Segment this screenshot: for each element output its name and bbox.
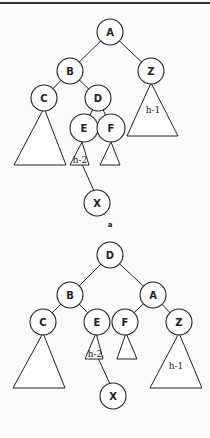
svg-text:Z: Z (175, 317, 182, 328)
node-z: Z (138, 58, 164, 84)
subtree-f (100, 142, 120, 165)
svg-text:B: B (66, 290, 74, 301)
node-a: A (97, 19, 123, 45)
svg-text:X: X (109, 391, 117, 402)
node-z: Z (166, 309, 192, 335)
node-c: C (30, 309, 56, 335)
svg-text:D: D (94, 93, 102, 104)
node-x: X (84, 190, 110, 216)
svg-text:F: F (108, 123, 115, 134)
node-x: X (100, 383, 126, 409)
svg-text:Z: Z (147, 66, 154, 77)
svg-text:B: B (66, 66, 74, 77)
node-e: E (70, 114, 98, 142)
node-a: A (140, 282, 166, 308)
node-b: B (57, 58, 83, 84)
edge-e-x (98, 358, 110, 384)
subtree-e-height: h-2 (73, 155, 88, 165)
node-d: D (97, 242, 123, 268)
svg-text:C: C (40, 93, 47, 104)
node-e: E (84, 309, 110, 335)
tree-rotation-diagram: h-1 h-2 A B Z C D E F X a h-2 h-1 D B A (0, 0, 210, 438)
subtree-c (14, 108, 66, 165)
svg-text:A: A (149, 290, 157, 301)
node-d: D (85, 85, 111, 111)
svg-text:F: F (122, 317, 129, 328)
subtree-f (117, 333, 137, 359)
node-b: B (57, 282, 83, 308)
svg-text:E: E (81, 123, 88, 134)
subtree-c (13, 333, 65, 388)
svg-text:E: E (94, 317, 101, 328)
svg-text:C: C (39, 317, 46, 328)
tree-before: h-1 h-2 A B Z C D E F X (14, 19, 178, 216)
node-f: F (112, 309, 138, 335)
figure-caption: a (108, 221, 113, 229)
subtree-z-height: h-1 (169, 361, 184, 371)
subtree-e-height: h-2 (88, 349, 103, 359)
svg-text:D: D (106, 250, 114, 261)
svg-text:A: A (106, 27, 114, 38)
node-c: C (31, 85, 57, 111)
subtree-z-height: h-1 (146, 105, 161, 115)
svg-text:X: X (93, 198, 101, 209)
tree-after: h-2 h-1 D B A C E F Z X (13, 242, 202, 409)
node-f: F (97, 114, 125, 142)
edge-e-x (82, 164, 94, 191)
